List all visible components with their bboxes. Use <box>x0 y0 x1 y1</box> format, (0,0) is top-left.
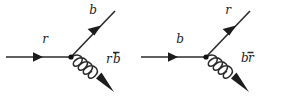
right-outgoing-label: r <box>225 3 232 17</box>
right-outgoing-arrowhead-icon <box>223 26 236 36</box>
left-gluon-coil <box>71 55 97 78</box>
left-gluon-arrowhead-icon <box>96 73 114 93</box>
feynman-diagram-right: b r b r <box>141 0 282 100</box>
left-gluon-label-main: r <box>106 52 113 66</box>
right-incoming-label: b <box>176 32 184 46</box>
right-incoming-arrowhead-icon <box>168 52 178 62</box>
diagram-right-canvas: b r b r <box>141 0 282 100</box>
feynman-diagram-figure: r b r b b r <box>0 0 282 100</box>
left-outgoing-label: b <box>89 3 97 17</box>
left-gluon-label-bar: b <box>113 52 121 66</box>
right-gluon-coil <box>206 55 232 78</box>
diagram-left-canvas: r b r b <box>0 0 141 100</box>
right-gluon-label: b r <box>241 51 255 65</box>
left-incoming-arrowhead-icon <box>33 52 43 62</box>
right-gluon-arrowhead-icon <box>231 73 249 93</box>
left-vertex-dot <box>68 54 73 59</box>
left-outgoing-arrowhead-icon <box>88 26 101 36</box>
left-incoming-label: r <box>42 32 49 46</box>
right-vertex-dot <box>203 54 208 59</box>
feynman-diagram-left: r b r b <box>0 0 141 100</box>
left-gluon-label: r b <box>106 52 121 66</box>
